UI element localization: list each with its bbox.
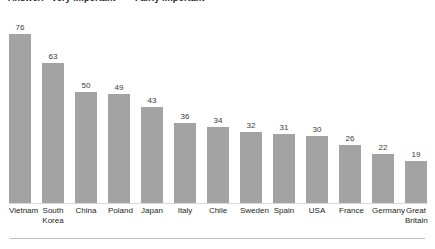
bar-slot[interactable]: 63 bbox=[42, 14, 64, 203]
bar-slot[interactable]: 49 bbox=[108, 14, 130, 203]
category-label: Japan bbox=[141, 206, 163, 226]
bar-value-label: 30 bbox=[313, 125, 322, 134]
bar-value-label: 32 bbox=[247, 121, 256, 130]
category-label: Vietnam bbox=[9, 206, 31, 226]
category-label: China bbox=[75, 206, 97, 226]
plot-area: 76635049433634323130262219 bbox=[0, 14, 435, 203]
bar[interactable] bbox=[9, 34, 31, 203]
bar[interactable] bbox=[405, 161, 427, 203]
bar[interactable] bbox=[339, 145, 361, 203]
category-label: Chile bbox=[207, 206, 229, 226]
chart-header-text: Answer: "Very important" + "Fairly impor… bbox=[8, 0, 209, 4]
bar[interactable] bbox=[306, 136, 328, 203]
bar-value-label: 76 bbox=[16, 23, 25, 32]
category-label: Sweden bbox=[240, 206, 262, 226]
footer-divider bbox=[10, 238, 425, 239]
bar-slot[interactable]: 50 bbox=[75, 14, 97, 203]
category-label: France bbox=[339, 206, 361, 226]
category-label: Poland bbox=[108, 206, 130, 226]
category-label: Italy bbox=[174, 206, 196, 226]
bar-slot[interactable]: 36 bbox=[174, 14, 196, 203]
category-label: South Korea bbox=[42, 206, 64, 226]
bar-slot[interactable]: 26 bbox=[339, 14, 361, 203]
bar-series: 76635049433634323130262219 bbox=[9, 14, 427, 203]
bar[interactable] bbox=[75, 92, 97, 203]
bar-value-label: 19 bbox=[412, 150, 421, 159]
bar[interactable] bbox=[273, 134, 295, 203]
chart-header-note: Answer: "Very important" + "Fairly impor… bbox=[8, 0, 209, 4]
category-label: Spain bbox=[273, 206, 295, 226]
bar-slot[interactable]: 43 bbox=[141, 14, 163, 203]
category-label: USA bbox=[306, 206, 328, 226]
bar-value-label: 50 bbox=[82, 81, 91, 90]
bar[interactable] bbox=[108, 94, 130, 203]
bar[interactable] bbox=[372, 154, 394, 203]
bar-slot[interactable]: 32 bbox=[240, 14, 262, 203]
bar-slot[interactable]: 31 bbox=[273, 14, 295, 203]
bar[interactable] bbox=[141, 107, 163, 203]
bar-value-label: 26 bbox=[346, 134, 355, 143]
bar[interactable] bbox=[240, 132, 262, 203]
bar-value-label: 49 bbox=[115, 83, 124, 92]
bar-slot[interactable]: 22 bbox=[372, 14, 394, 203]
axis-baseline bbox=[9, 203, 428, 204]
bar-value-label: 31 bbox=[280, 123, 289, 132]
bar-slot[interactable]: 30 bbox=[306, 14, 328, 203]
category-label: Great Britain bbox=[405, 206, 427, 226]
category-label: Germany bbox=[372, 206, 394, 226]
bar[interactable] bbox=[174, 123, 196, 203]
bar[interactable] bbox=[42, 63, 64, 203]
bar[interactable] bbox=[207, 127, 229, 203]
bar-value-label: 63 bbox=[49, 52, 58, 61]
bar-value-label: 34 bbox=[214, 116, 223, 125]
bar-slot[interactable]: 19 bbox=[405, 14, 427, 203]
bar-value-label: 36 bbox=[181, 112, 190, 121]
bar-value-label: 43 bbox=[148, 96, 157, 105]
category-axis: VietnamSouth KoreaChinaPolandJapanItalyC… bbox=[9, 206, 427, 226]
bar-value-label: 22 bbox=[379, 143, 388, 152]
bar-chart: Answer: "Very important" + "Fairly impor… bbox=[0, 0, 435, 249]
bar-slot[interactable]: 76 bbox=[9, 14, 31, 203]
bar-slot[interactable]: 34 bbox=[207, 14, 229, 203]
